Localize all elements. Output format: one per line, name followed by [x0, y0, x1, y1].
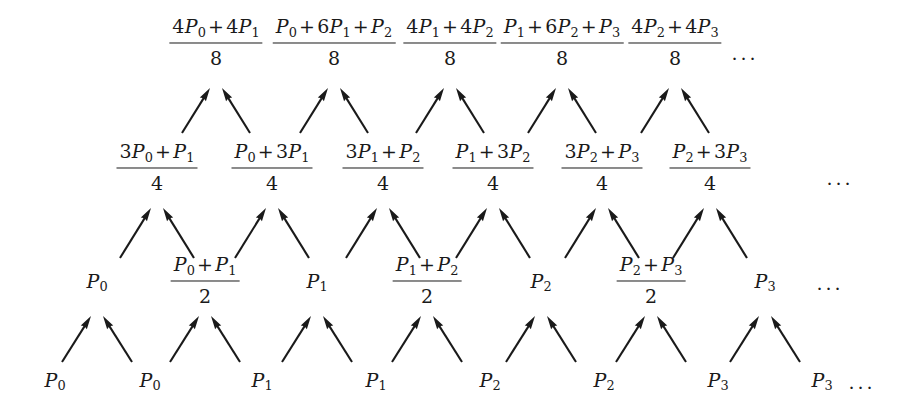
arrow-up-left	[499, 208, 530, 258]
fraction-node: P2 + P32	[617, 254, 686, 311]
fraction-node: P0 + P12	[171, 254, 240, 311]
arrow-up-right	[456, 208, 487, 258]
fraction-node: P1 + P22	[393, 254, 462, 311]
fraction: P0 + P12	[171, 254, 240, 311]
point-node: P3	[811, 371, 832, 394]
point-node: P0	[139, 371, 160, 394]
fraction-node: 4P2 + 4P38	[628, 16, 721, 73]
point-label: P3	[754, 272, 775, 295]
fraction-node: 3P2 + P34	[561, 141, 642, 198]
fraction-denominator: 4	[342, 169, 423, 199]
fraction-denominator: 4	[452, 169, 533, 199]
point-node: P2	[479, 371, 500, 394]
arrow-up-left	[547, 316, 576, 362]
point-label: P3	[811, 371, 832, 394]
fraction-numerator: P2 + P3	[617, 254, 686, 281]
fraction-denominator: 2	[393, 282, 462, 312]
point-label: P2	[593, 371, 614, 394]
fraction-denominator: 2	[617, 282, 686, 312]
arrow-up-right	[62, 316, 91, 362]
arrow-up-left	[211, 316, 240, 362]
arrow-up-left	[456, 88, 484, 133]
fraction-node: P0 + 6P1 + P28	[273, 16, 396, 73]
row-ellipsis: ...	[816, 272, 843, 294]
arrow-up-left	[389, 208, 420, 258]
fraction-node: 3P0 + P14	[116, 141, 197, 198]
point-node: P3	[754, 272, 775, 295]
fraction-node: 3P1 + P24	[342, 141, 423, 198]
arrow-up-right	[416, 88, 444, 133]
point-label: P0	[139, 371, 160, 394]
arrow-band	[120, 208, 747, 258]
fraction-denominator: 8	[169, 44, 262, 74]
point-node: P1	[365, 371, 386, 394]
point-label: P1	[365, 371, 386, 394]
fraction-denominator: 8	[501, 44, 624, 74]
arrow-up-left	[323, 316, 352, 362]
arrow-band	[62, 316, 800, 362]
fraction-numerator: P2 + 3P3	[669, 141, 750, 168]
arrow-up-left	[340, 88, 368, 133]
point-label: P2	[479, 371, 500, 394]
fraction: P1 + P22	[393, 254, 462, 311]
fraction-numerator: 4P2 + 4P3	[628, 16, 721, 43]
arrow-up-left	[222, 88, 250, 133]
fraction: 3P1 + P24	[342, 141, 423, 198]
arrow-up-right	[120, 208, 151, 258]
fraction-numerator: 3P2 + P3	[561, 141, 642, 168]
fraction-denominator: 4	[561, 169, 642, 199]
fraction-node: 4P0 + 4P18	[169, 16, 262, 73]
arrow-up-right	[235, 208, 266, 258]
fraction-denominator: 4	[116, 169, 197, 199]
fraction-numerator: P0 + 3P1	[231, 141, 312, 168]
point-label: P2	[530, 272, 551, 295]
fraction-numerator: P1 + 6P2 + P3	[501, 16, 624, 43]
arrow-up-right	[616, 316, 645, 362]
row-ellipsis: ...	[731, 42, 758, 64]
point-node: P2	[593, 371, 614, 394]
point-node: P1	[251, 371, 272, 394]
arrow-up-left	[608, 208, 639, 258]
fraction-node: P0 + 3P14	[231, 141, 312, 198]
fraction-node: P2 + 3P34	[669, 141, 750, 198]
fraction-numerator: P1 + P2	[393, 254, 462, 281]
arrow-up-right	[641, 88, 669, 133]
fraction: 3P2 + P34	[561, 141, 642, 198]
fraction: 4P2 + 4P38	[628, 16, 721, 73]
fraction-denominator: 4	[231, 169, 312, 199]
fraction: P0 + 3P14	[231, 141, 312, 198]
fraction-numerator: P1 + 3P2	[452, 141, 533, 168]
point-node: P2	[530, 272, 551, 295]
arrow-up-left	[681, 88, 709, 133]
point-node: P3	[707, 371, 728, 394]
fraction-denominator: 8	[273, 44, 396, 74]
arrow-up-left	[568, 88, 596, 133]
arrow-up-left	[771, 316, 800, 362]
fraction-denominator: 4	[669, 169, 750, 199]
arrow-up-left	[657, 316, 686, 362]
point-node: P0	[44, 371, 65, 394]
point-label: P0	[86, 272, 107, 295]
fraction: P2 + 3P34	[669, 141, 750, 198]
fraction-node: P1 + 3P24	[452, 141, 533, 198]
arrow-up-left	[163, 208, 194, 258]
fraction: P0 + 6P1 + P28	[273, 16, 396, 73]
fraction-denominator: 8	[628, 44, 721, 74]
arrow-up-right	[528, 88, 556, 133]
row-ellipsis: ...	[826, 167, 853, 189]
arrow-up-right	[170, 316, 199, 362]
fraction-numerator: P0 + P1	[171, 254, 240, 281]
arrow-up-left	[433, 316, 462, 362]
point-label: P0	[44, 371, 65, 394]
fraction: 3P0 + P14	[116, 141, 197, 198]
subdivision-pyramid-diagram: 4P0 + 4P18P0 + 6P1 + P284P1 + 4P28P1 + 6…	[0, 0, 897, 417]
fraction: P2 + P32	[617, 254, 686, 311]
arrow-up-right	[346, 208, 377, 258]
row-ellipsis: ...	[848, 371, 875, 393]
arrow-band	[182, 88, 709, 133]
arrow-up-right	[730, 316, 759, 362]
arrow-up-left	[103, 316, 132, 362]
fraction-node: P1 + 6P2 + P38	[501, 16, 624, 73]
fraction-denominator: 2	[171, 282, 240, 312]
arrow-up-right	[392, 316, 421, 362]
